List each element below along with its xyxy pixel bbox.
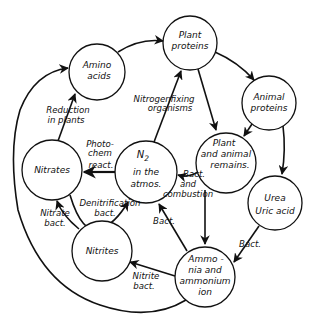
n2-label-3: atmos. [131,179,162,189]
node-nitrates: Nitrates [22,140,82,200]
nitrites-label: Nitrites [86,246,119,256]
node-urea: Urea Uric acid [248,176,302,230]
animal-proteins-label-2: proteins [250,103,288,113]
nitrogen-cycle-diagram: Amino acids Plant proteins Animal protei… [0,0,310,319]
nitrate-bact-label-2: bact. [44,218,66,228]
node-nitrites: Nitrites [72,221,132,281]
urea-label-2: Uric acid [255,206,295,216]
node-amino-acids: Amino acids [69,44,125,100]
n2-label-2: in the [133,167,159,177]
edge-animal-proteins-to-urea [282,126,284,174]
nitrates-label: Nitrates [34,165,70,175]
remains-label-3: remains. [210,160,249,170]
ammonia-label-3: ammonium [179,276,230,286]
bact-combustion-label-2: and [180,179,197,189]
photochem-label-3: react. [89,160,114,170]
nitrogen-fixing-label-2: organisms [148,103,193,113]
reduction-label-1: Reduction [46,105,89,115]
ammonia-label-1: Ammo - [187,254,223,264]
animal-proteins-label-1: Animal [252,92,285,102]
plant-proteins-label-1: Plant [179,30,202,40]
photochem-label-2: chem [88,148,112,158]
nitrite-bact-label-1: Nitrite [133,271,160,281]
bact-ammonia-n2-label: Bact. [153,216,175,226]
amino-acids-label-2: acids [87,71,111,81]
node-remains: Plant and animal remains. [196,133,256,193]
denitrification-label-2: bact. [94,208,116,218]
remains-label-2: and animal [201,149,252,159]
bact-combustion-label-1: Bact. [183,169,205,179]
remains-label-1: Plant [213,138,236,148]
edge-plant-proteins-to-remains [198,69,216,130]
edge-ammonia-to-n2 [159,204,187,251]
node-animal-proteins: Animal proteins [242,76,296,130]
bact-combustion-label-3: combustion [163,189,213,199]
denitrification-label-1: Denitrification [79,198,140,208]
reduction-label-2: in plants [48,115,85,125]
nitrate-bact-label-1: Nitrate [40,208,70,218]
plant-proteins-label-2: proteins [171,41,209,51]
node-plant-proteins: Plant proteins [163,16,217,70]
ammonia-label-2: nia and [188,265,222,275]
edge-plant-to-animal-proteins [215,52,254,80]
node-ammonia: Ammo - nia and ammonium ion [175,247,235,307]
edge-animal-proteins-to-remains [244,124,252,136]
ammonia-label-4: ion [198,287,212,297]
edge-amino-to-plant-proteins [118,40,163,52]
amino-acids-label-1: Amino [82,60,112,70]
nitrite-bact-label-2: bact. [133,281,155,291]
bact-urea-label: Bact. [239,239,261,249]
urea-label-1: Urea [264,193,285,203]
